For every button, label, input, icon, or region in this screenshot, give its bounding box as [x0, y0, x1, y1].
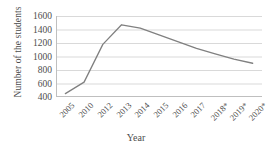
- y-axis-tick-label: 1600: [22, 11, 52, 21]
- y-axis-tick-label: 1200: [22, 38, 52, 48]
- x-axis-tick-label: 2010: [77, 101, 96, 120]
- x-axis-title: Year: [0, 132, 272, 143]
- y-axis-tick-label: 1400: [22, 25, 52, 35]
- x-axis-tick-label: 2018*: [209, 101, 231, 123]
- line-chart: Number of the students 16001400120010008…: [0, 0, 272, 152]
- x-axis-tick-label: 2012: [96, 101, 115, 120]
- y-axis-tick-label: 400: [22, 92, 52, 102]
- gridlines: [56, 17, 262, 85]
- x-axis-tick-label: 2019*: [228, 101, 250, 123]
- x-axis-tick-label: 2005: [58, 101, 77, 120]
- x-axis-tick-label: 2015: [152, 101, 171, 120]
- x-axis-tick-label: 2017: [189, 101, 208, 120]
- plot-area: [56, 16, 262, 97]
- y-axis-tick-label: 1000: [22, 52, 52, 62]
- y-axis-tick-label: 600: [22, 79, 52, 89]
- y-axis-tick-labels: 1600140012001000800600400: [21, 0, 52, 152]
- x-axis-tick-labels: 200520102012201320142015201620172018*201…: [56, 97, 262, 133]
- x-axis-tick-label: 2016: [171, 101, 190, 120]
- plot-svg: [56, 16, 262, 97]
- x-axis-tick-label: 2014: [133, 101, 152, 120]
- y-axis-tick-label: 800: [22, 65, 52, 75]
- series-line: [65, 25, 252, 94]
- x-axis-tick-label: 2013: [115, 101, 134, 120]
- x-axis-tick-label: 2020*: [247, 101, 269, 123]
